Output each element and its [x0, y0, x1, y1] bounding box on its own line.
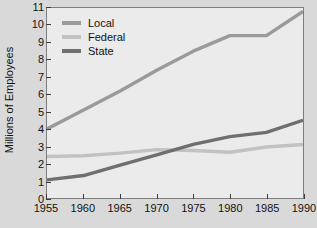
y-tick-label: 2 [22, 159, 44, 170]
y-tick-mark [46, 24, 51, 25]
y-tick-label: 11 [22, 2, 44, 13]
x-tick-label: 1985 [247, 203, 287, 214]
y-tick-mark [46, 112, 51, 113]
y-tick-label: 8 [22, 54, 44, 65]
legend-label-federal: Federal [88, 32, 125, 43]
legend-swatch-state [62, 49, 81, 53]
legend-label-state: State [88, 46, 114, 57]
legend-item-federal: Federal [62, 30, 142, 44]
y-tick-mark [46, 182, 51, 183]
y-axis-tick-labels: 01234567891011 [18, 7, 44, 199]
y-tick-mark [46, 59, 51, 60]
y-tick-mark [46, 199, 51, 200]
y-tick-label: 1 [22, 176, 44, 187]
x-tick-label: 1990 [284, 203, 317, 214]
y-tick-mark [46, 7, 51, 8]
x-tick-label: 1970 [137, 203, 177, 214]
x-tick-mark [193, 194, 194, 199]
y-tick-mark [46, 42, 51, 43]
legend-swatch-federal [62, 35, 81, 39]
x-tick-mark [46, 194, 47, 199]
x-tick-mark [304, 194, 305, 199]
chart-legend: Local Federal State [62, 16, 142, 58]
x-tick-mark [267, 194, 268, 199]
y-tick-mark [46, 77, 51, 78]
y-tick-label: 5 [22, 106, 44, 117]
x-tick-label: 1960 [63, 203, 103, 214]
y-axis-title-text: Millions of Employees [3, 47, 15, 153]
legend-item-state: State [62, 44, 142, 58]
y-tick-mark [46, 129, 51, 130]
chart-figure: Millions of Employees 01234567891011 195… [0, 0, 317, 228]
y-tick-mark [46, 164, 51, 165]
y-tick-label: 10 [22, 19, 44, 30]
legend-swatch-local [62, 21, 81, 25]
y-tick-label: 4 [22, 124, 44, 135]
y-axis-title: Millions of Employees [0, 0, 18, 200]
x-tick-mark [157, 194, 158, 199]
y-tick-label: 6 [22, 89, 44, 100]
series-line-state [47, 120, 303, 180]
x-tick-label: 1955 [26, 203, 66, 214]
y-tick-mark [46, 94, 51, 95]
y-tick-label: 3 [22, 141, 44, 152]
x-axis-tick-labels: 19551960196519701975198019851990 [0, 203, 317, 219]
x-tick-mark [120, 194, 121, 199]
x-tick-mark [230, 194, 231, 199]
x-tick-label: 1975 [173, 203, 213, 214]
x-tick-label: 1965 [100, 203, 140, 214]
legend-label-local: Local [88, 18, 114, 29]
y-tick-label: 7 [22, 71, 44, 82]
y-tick-label: 9 [22, 36, 44, 47]
x-tick-label: 1980 [210, 203, 250, 214]
y-tick-mark [46, 147, 51, 148]
x-tick-mark [83, 194, 84, 199]
legend-item-local: Local [62, 16, 142, 30]
